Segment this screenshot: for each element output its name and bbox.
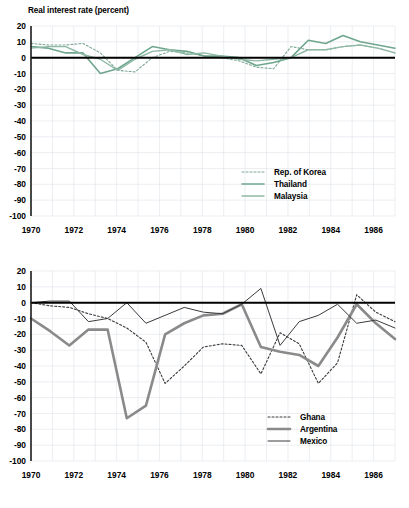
y-axis-tick-label: -30 (14, 345, 26, 355)
series-line-ghana (31, 295, 395, 384)
y-axis-tick-label: -40 (14, 116, 26, 126)
y-axis-tick-label: 20 (17, 266, 27, 276)
y-axis-tick-label: -80 (14, 179, 26, 189)
y-axis-tick-label: 10 (17, 282, 27, 292)
y-axis-tick-label: -90 (14, 440, 26, 450)
x-axis-tick-label: 1984 (321, 470, 340, 480)
x-axis-tick-label: 1970 (22, 225, 41, 235)
x-axis-tick-label: 1976 (150, 225, 169, 235)
legend-label-argentina: Argentina (300, 425, 338, 434)
y-axis-tick-label: -50 (14, 132, 26, 142)
y-axis-tick-label: -100 (9, 456, 26, 466)
y-axis-tick-label: -20 (14, 329, 26, 339)
y-axis-tick-label: -40 (14, 361, 26, 371)
x-axis-tick-label: 1972 (65, 225, 84, 235)
y-axis-tick-label: -10 (14, 314, 26, 324)
x-axis-tick-label: 1984 (321, 225, 340, 235)
legend-label-thailand: Thailand (274, 180, 307, 189)
chart-legend: Rep. of KoreaThailandMalaysia (242, 168, 326, 201)
x-axis-tick-label: 1980 (236, 470, 255, 480)
chart-plot-latam-africa: 20100-10-20-30-40-50-60-70-80-90-1001970… (0, 255, 409, 508)
x-axis-tick-label: 1974 (107, 225, 126, 235)
x-axis-tick-label: 1978 (193, 470, 212, 480)
x-axis-tick-label: 1972 (65, 470, 84, 480)
x-axis-tick-label: 1970 (22, 470, 41, 480)
y-axis-tick-label: 10 (17, 37, 27, 47)
x-axis-tick-label: 1974 (107, 470, 126, 480)
y-axis-tick-label: 20 (17, 21, 27, 31)
x-axis-tick-label: 1980 (236, 225, 255, 235)
x-axis-tick-label: 1982 (279, 470, 298, 480)
y-axis-tick-label: -10 (14, 69, 26, 79)
x-axis-tick-label: 1986 (364, 470, 383, 480)
chart-panel-latam-africa: 20100-10-20-30-40-50-60-70-80-90-1001970… (0, 255, 409, 508)
legend-label-rep-of-korea: Rep. of Korea (274, 168, 326, 177)
series-line-argentina (31, 304, 395, 418)
y-axis-tick-label: -70 (14, 164, 26, 174)
figure-footnote (4, 501, 404, 508)
y-axis-tick-label: -60 (14, 393, 26, 403)
legend-label-malaysia: Malaysia (274, 192, 308, 201)
y-axis-tick-label: 0 (21, 298, 26, 308)
y-axis-tick-label: -100 (9, 211, 26, 221)
x-axis-tick-label: 1976 (150, 470, 169, 480)
x-axis-tick-label: 1986 (364, 225, 383, 235)
figure-page: Real interest rate (percent) 20100-10-20… (0, 0, 409, 508)
y-axis-tick-label: -90 (14, 195, 26, 205)
y-axis-tick-label: -70 (14, 409, 26, 419)
x-axis-tick-label: 1978 (193, 225, 212, 235)
y-axis-tick-label: -50 (14, 377, 26, 387)
legend-label-ghana: Ghana (300, 413, 326, 422)
legend-label-mexico: Mexico (300, 437, 327, 446)
y-axis-tick-label: 0 (21, 53, 26, 63)
chart-panel-asia: Real interest rate (percent) 20100-10-20… (0, 0, 409, 250)
y-axis-tick-label: -30 (14, 100, 26, 110)
series-line-mexico (31, 288, 395, 345)
y-axis-tick-label: -60 (14, 148, 26, 158)
chart-plot-asia: 20100-10-20-30-40-50-60-70-80-90-1001970… (0, 0, 409, 250)
x-axis-tick-label: 1982 (279, 225, 298, 235)
y-axis-tick-label: -80 (14, 424, 26, 434)
y-axis-tick-label: -20 (14, 84, 26, 94)
chart-legend: GhanaArgentinaMexico (268, 413, 338, 446)
